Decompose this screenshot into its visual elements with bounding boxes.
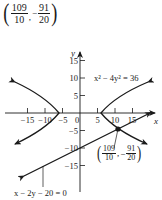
line-equation-label: x − 2y − 20 = 0	[14, 188, 67, 198]
y-denominator: 20	[127, 154, 135, 162]
x-denominator: 10	[105, 154, 113, 162]
svg-text:−15: −15	[21, 115, 34, 125]
svg-text:5: 5	[74, 91, 78, 101]
intersection-point-label: ( 109 10 , − 91 20 )	[96, 143, 142, 164]
svg-text:−5: −5	[58, 115, 67, 125]
x-fraction: 109 10	[102, 145, 116, 162]
y-sign: −	[120, 149, 125, 159]
left-paren: (	[97, 143, 101, 164]
svg-text:15: 15	[70, 56, 79, 66]
svg-text:10: 10	[70, 73, 79, 83]
svg-text:0: 0	[75, 115, 79, 125]
svg-text:−10: −10	[38, 115, 51, 125]
separator: ,	[117, 148, 119, 158]
x-axis-label: x	[153, 116, 158, 126]
svg-text:5: 5	[95, 115, 99, 125]
svg-text:−5: −5	[69, 126, 78, 136]
graph: y x −15 −10 −5 0 5 10 15 15 10 5 −5 −10 …	[0, 0, 162, 200]
svg-text:−15: −15	[65, 161, 78, 171]
hyperbola-equation-label: x² − 4y² = 36	[94, 73, 138, 83]
right-paren: )	[137, 143, 141, 164]
svg-text:−10: −10	[65, 143, 78, 153]
y-fraction: 91 20	[126, 145, 136, 162]
x-tick-labels: −15 −10 −5 0 5 10 15	[21, 115, 136, 125]
